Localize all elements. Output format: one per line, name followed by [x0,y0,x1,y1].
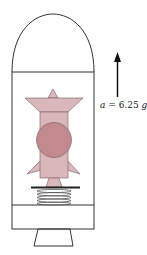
figure-on-scale [25,89,83,187]
rocket-diagram [0,0,147,255]
acceleration-arrow-icon [114,52,121,62]
equals-sign: = [105,100,118,110]
acceleration-unit: g [142,100,147,110]
figure-upper-wings [25,98,83,112]
nozzle [34,229,73,246]
nose-cone [12,14,94,72]
acceleration-value: 6.25 [119,100,139,110]
figure-foot [46,178,62,187]
acceleration-label: a = 6.25 g [100,100,147,110]
figure-top-spike [48,89,58,98]
spring-icon [37,189,71,205]
figure-right-spike [67,160,80,174]
figure-head [37,123,72,158]
figure-left-spike [27,160,41,174]
